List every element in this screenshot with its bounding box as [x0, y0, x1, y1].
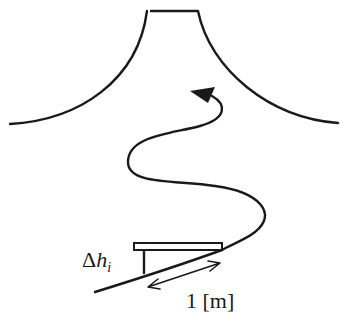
delta-symbol: Δ — [82, 247, 96, 272]
arrowhead-icon — [190, 87, 215, 103]
plank — [134, 243, 222, 250]
height-variable: h — [96, 247, 107, 272]
height-difference-label: Δhi — [82, 247, 111, 276]
mountain-left-slope — [10, 11, 147, 124]
length-double-arrow — [148, 261, 220, 289]
winding-path — [128, 96, 265, 250]
slope-line — [95, 250, 222, 292]
mountain-right-slope — [198, 11, 338, 123]
height-subscript: i — [107, 260, 111, 275]
length-label: 1 [m] — [186, 288, 234, 314]
diagram-canvas — [0, 0, 352, 329]
